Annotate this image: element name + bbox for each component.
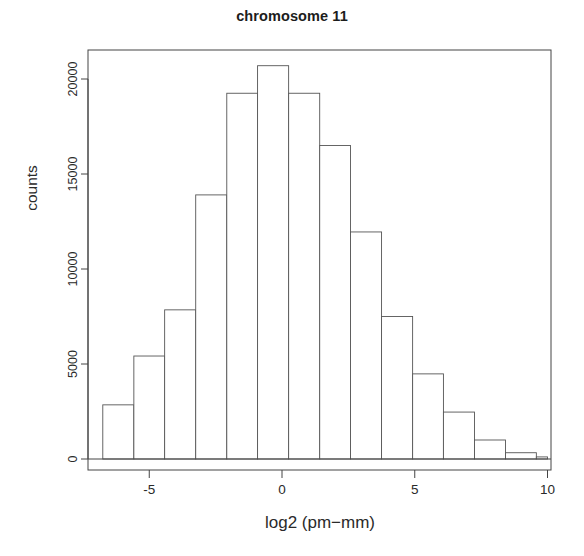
histogram-figure: chromosome 11 counts log2 (pm−mm) 050001…	[0, 0, 584, 556]
histogram-bar	[134, 356, 165, 459]
histogram-bar	[165, 310, 196, 459]
histogram-bars	[103, 66, 548, 459]
histogram-bar	[351, 232, 382, 459]
histogram-bar	[382, 317, 413, 460]
y-tick-label: 20000	[66, 49, 80, 109]
histogram-bar	[320, 146, 351, 460]
histogram-bar	[506, 453, 537, 459]
histogram-bar	[227, 93, 258, 459]
plot-area	[0, 0, 584, 556]
x-tick-label: 0	[252, 482, 312, 497]
y-tick-label: 0	[66, 429, 80, 489]
histogram-bar	[443, 412, 474, 459]
y-tick-label: 5000	[66, 334, 80, 394]
histogram-bar	[289, 93, 320, 459]
histogram-bar	[258, 66, 289, 459]
x-tick-label: 5	[385, 482, 445, 497]
y-tick-label: 10000	[66, 239, 80, 299]
histogram-bar	[474, 440, 505, 459]
x-tick-label: -5	[119, 482, 179, 497]
histogram-bar	[196, 195, 227, 459]
y-tick-label: 15000	[66, 144, 80, 204]
histogram-bar	[413, 374, 444, 459]
histogram-bar	[103, 405, 134, 459]
x-tick-label: 10	[518, 482, 578, 497]
